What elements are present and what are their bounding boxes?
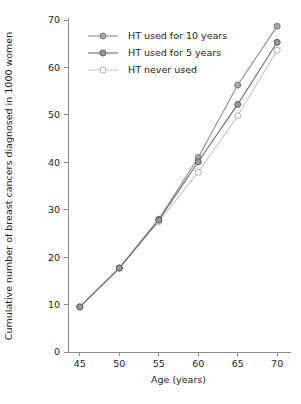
data-point bbox=[195, 159, 201, 165]
x-tick-label: 50 bbox=[113, 358, 125, 369]
data-point bbox=[235, 101, 241, 107]
data-point bbox=[235, 82, 241, 88]
y-tick-label: 50 bbox=[48, 109, 60, 120]
legend-label-2: HT never used bbox=[128, 64, 197, 75]
legend-label-0: HT used for 10 years bbox=[128, 30, 227, 41]
y-tick-label: 40 bbox=[48, 157, 60, 168]
data-point bbox=[274, 47, 280, 53]
line-chart: 010203040506070455055606570Age (years)Cu… bbox=[0, 0, 301, 404]
data-point bbox=[274, 39, 280, 45]
y-tick-label: 10 bbox=[48, 299, 60, 310]
legend-label-1: HT used for 5 years bbox=[128, 47, 221, 58]
y-tick-label: 30 bbox=[48, 204, 60, 215]
y-tick-label: 60 bbox=[48, 62, 60, 73]
x-tick-label: 60 bbox=[192, 358, 204, 369]
y-tick-label: 20 bbox=[48, 252, 60, 263]
data-point bbox=[274, 23, 280, 29]
legend-marker-0 bbox=[100, 33, 106, 39]
data-point bbox=[77, 304, 83, 310]
legend-marker-1 bbox=[100, 50, 106, 56]
data-point bbox=[195, 169, 201, 175]
x-axis-title: Age (years) bbox=[151, 374, 206, 385]
y-axis-title: Cumulative number of breast cancers diag… bbox=[3, 32, 14, 340]
x-tick-label: 55 bbox=[153, 358, 165, 369]
chart-figure: 010203040506070455055606570Age (years)Cu… bbox=[0, 0, 301, 404]
data-point bbox=[156, 217, 162, 223]
series-line-1 bbox=[80, 42, 277, 307]
y-tick-label: 70 bbox=[48, 14, 60, 25]
data-point bbox=[235, 113, 241, 119]
legend-marker-2 bbox=[100, 67, 106, 73]
data-point bbox=[116, 265, 122, 271]
x-tick-label: 70 bbox=[271, 358, 283, 369]
x-tick-label: 65 bbox=[232, 358, 244, 369]
x-tick-label: 45 bbox=[74, 358, 86, 369]
y-tick-label: 0 bbox=[54, 346, 60, 357]
